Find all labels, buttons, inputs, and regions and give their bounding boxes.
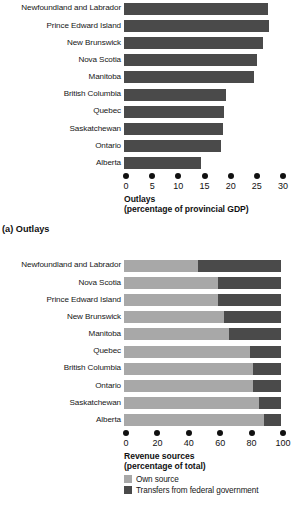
- chart-row: Manitoba: [0, 326, 291, 343]
- bar-segment-transfers: [264, 414, 281, 426]
- axis-tick-marker: [154, 430, 160, 436]
- category-label: Manitoba: [0, 73, 124, 81]
- bar-segment-transfers: [259, 397, 281, 409]
- bar-track: [124, 363, 281, 375]
- stacked-bar: [124, 363, 281, 375]
- chart-revenue-legend: Own source Transfers from federal govern…: [124, 474, 291, 496]
- chart-row: Saskatchewan: [0, 395, 291, 412]
- bar-track: [124, 71, 281, 83]
- stacked-bar: [124, 380, 281, 392]
- stacked-bar: [124, 346, 281, 358]
- axis-title-line-2: (percentage of total): [124, 461, 291, 471]
- bar: [124, 20, 269, 32]
- axis-tick-label: 5: [150, 181, 155, 191]
- category-label: Prince Edward Island: [0, 22, 124, 30]
- bar-segment-transfers: [229, 328, 281, 340]
- category-label: Manitoba: [0, 330, 124, 338]
- legend-item-own-source: Own source: [124, 474, 291, 485]
- category-label: Ontario: [0, 142, 124, 150]
- bar-track: [124, 37, 281, 49]
- axis-tick-marker: [217, 430, 223, 436]
- panel-a-caption: (a) Outlays: [2, 224, 291, 234]
- bar-track: [124, 89, 281, 101]
- bar-segment-transfers: [250, 346, 281, 358]
- bar-track: [124, 260, 281, 272]
- axis-title-line-1: Revenue sources: [124, 451, 291, 461]
- bar-track: [124, 328, 281, 340]
- axis-tick-label: 0: [123, 181, 128, 191]
- axis-tick-marker: [123, 173, 129, 179]
- legend-label-own-source: Own source: [136, 475, 179, 484]
- axis-tick-marker: [254, 173, 260, 179]
- legend-item-transfers: Transfers from federal government: [124, 485, 291, 496]
- bar-segment-own-source: [124, 311, 224, 323]
- bar-track: [124, 311, 281, 323]
- category-label: Alberta: [0, 159, 124, 167]
- bar-segment-transfers: [253, 363, 281, 375]
- bar-segment-transfers: [218, 277, 281, 289]
- bar-segment-own-source: [124, 346, 250, 358]
- axis-tick-marker: [186, 430, 192, 436]
- chart-row: Alberta: [0, 412, 291, 429]
- axis-tick-label: 60: [215, 438, 225, 448]
- category-label: Saskatchewan: [0, 125, 124, 133]
- legend-swatch-transfers-icon: [124, 486, 132, 494]
- bar: [124, 37, 263, 49]
- axis-tick-marker: [249, 430, 255, 436]
- chart-row: Nova Scotia: [0, 274, 291, 291]
- bar-segment-own-source: [124, 277, 218, 289]
- stacked-bar: [124, 294, 281, 306]
- chart-row: Newfoundland and Labrador: [0, 257, 291, 274]
- chart-revenue-bars: Newfoundland and LabradorNova ScotiaPrin…: [0, 257, 291, 429]
- chart-row: Quebec: [0, 103, 291, 120]
- bar-track: [124, 397, 281, 409]
- bar: [124, 123, 223, 135]
- bar: [124, 89, 226, 101]
- category-label: Nova Scotia: [0, 279, 124, 287]
- chart-row: Prince Edward Island: [0, 17, 291, 34]
- bar-track: [124, 123, 281, 135]
- chart-revenue-axis-title: Revenue sources (percentage of total): [124, 451, 291, 472]
- bar-segment-own-source: [124, 294, 218, 306]
- chart-row: British Columbia: [0, 360, 291, 377]
- bar-track: [124, 277, 281, 289]
- axis-tick-marker: [280, 430, 286, 436]
- chart-row: Ontario: [0, 377, 291, 394]
- bar-segment-transfers: [198, 260, 281, 272]
- chart-outlays-bars: Newfoundland and LabradorPrince Edward I…: [0, 0, 291, 172]
- bar: [124, 71, 254, 83]
- bar-segment-transfers: [253, 380, 281, 392]
- legend-label-transfers: Transfers from federal government: [136, 486, 258, 495]
- category-label: New Brunswick: [0, 313, 124, 321]
- category-label: Nova Scotia: [0, 56, 124, 64]
- category-label: Quebec: [0, 107, 124, 115]
- chart-row: Nova Scotia: [0, 52, 291, 69]
- chart-outlays: Newfoundland and LabradorPrince Edward I…: [0, 0, 291, 234]
- bar: [124, 157, 201, 169]
- axis-tick-label: 20: [152, 438, 162, 448]
- chart-row: Alberta: [0, 155, 291, 172]
- bar-segment-own-source: [124, 380, 253, 392]
- bar-track: [124, 380, 281, 392]
- stacked-bar: [124, 414, 281, 426]
- bar-track: [124, 106, 281, 118]
- axis-tick-marker: [175, 173, 181, 179]
- bar-track: [124, 20, 281, 32]
- stacked-bar: [124, 397, 281, 409]
- stacked-bar: [124, 260, 281, 272]
- category-label: Alberta: [0, 416, 124, 424]
- bar-track: [124, 3, 281, 15]
- bar: [124, 106, 224, 118]
- stacked-bar: [124, 311, 281, 323]
- bar-segment-own-source: [124, 328, 229, 340]
- chart-row: Prince Edward Island: [0, 291, 291, 308]
- chart-row: Saskatchewan: [0, 120, 291, 137]
- chart-row: Manitoba: [0, 69, 291, 86]
- axis-tick-label: 40: [184, 438, 194, 448]
- chart-row: New Brunswick: [0, 309, 291, 326]
- axis-tick-label: 15: [199, 181, 209, 191]
- bar-segment-transfers: [218, 294, 281, 306]
- axis-tick-label: 25: [252, 181, 262, 191]
- bar: [124, 3, 268, 15]
- axis-tick-marker: [280, 173, 286, 179]
